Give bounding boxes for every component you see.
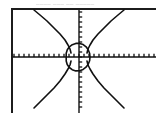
axes-group — [13, 10, 156, 113]
series-branch-upper-right — [87, 10, 124, 53]
series-branch-upper-left — [34, 10, 71, 53]
series-branch-lower-left — [34, 61, 71, 108]
series-branch-lower-right — [87, 61, 124, 108]
graph-plot-area — [0, 0, 156, 113]
calculator-graph-screen: ____ ___ __ _____ — [0, 0, 156, 113]
